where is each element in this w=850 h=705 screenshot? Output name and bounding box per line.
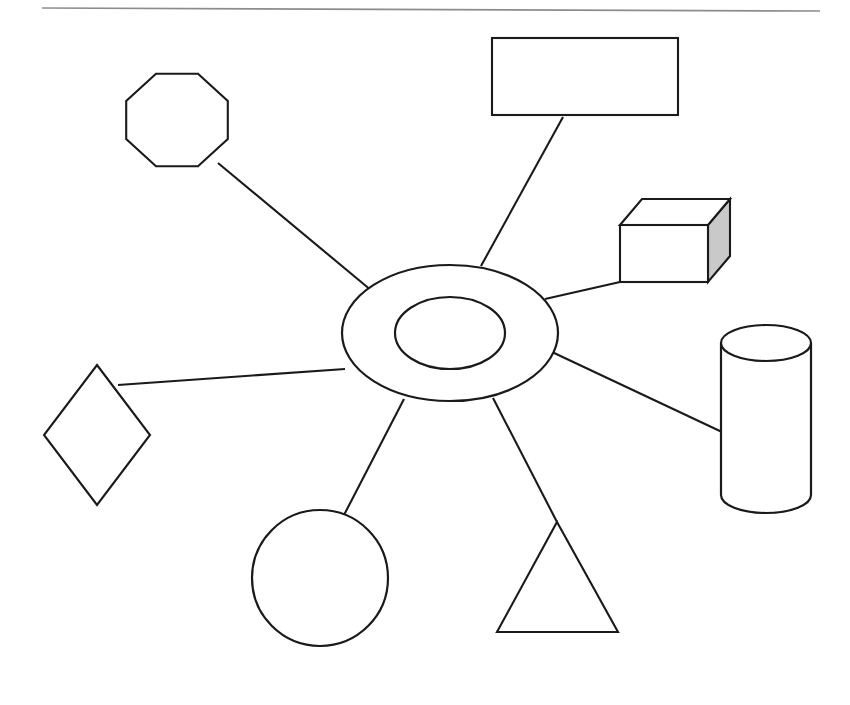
cylinder-body <box>721 343 811 513</box>
cylinder-top-cap <box>721 325 811 361</box>
cube-front-face <box>620 225 708 282</box>
circle-node[interactable] <box>252 510 388 646</box>
horizontal-divider-line <box>42 8 820 11</box>
central-hub[interactable] <box>342 265 558 401</box>
cylinder-node[interactable] <box>721 325 811 513</box>
radial-diagram <box>0 0 850 705</box>
diagram-canvas <box>0 0 850 705</box>
triangle-node[interactable] <box>497 522 618 632</box>
cube-node[interactable] <box>620 199 730 282</box>
spoke-to-circle <box>344 399 404 515</box>
diamond-node[interactable] <box>44 365 150 505</box>
octagon-node[interactable] <box>126 74 228 166</box>
rectangle-node[interactable] <box>492 38 678 115</box>
hub-inner-ellipse <box>395 297 505 369</box>
spoke-to-rectangle <box>481 117 563 266</box>
spoke-to-cylinder <box>552 352 722 432</box>
spoke-to-octagon <box>218 163 372 291</box>
spoke-to-triangle <box>493 398 557 522</box>
spoke-to-diamond <box>118 369 345 385</box>
spoke-to-cube <box>545 282 620 299</box>
